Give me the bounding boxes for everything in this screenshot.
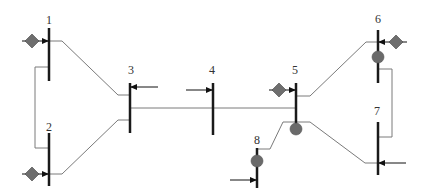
generator-diamond-icon xyxy=(25,34,39,48)
bus-label-1: 1 xyxy=(46,13,52,27)
compensator-bus-6-icon xyxy=(372,51,384,63)
compensators xyxy=(251,51,384,167)
loads xyxy=(131,87,406,180)
bus-label-6: 6 xyxy=(375,12,381,26)
bus-label-4: 4 xyxy=(209,63,215,77)
line-2-3 xyxy=(49,120,130,174)
bus-label-7: 7 xyxy=(374,104,380,118)
compensator-bus-5-icon xyxy=(290,123,302,135)
generator-diamond-icon xyxy=(389,35,403,49)
line-1-3 xyxy=(49,41,130,95)
bus-label-5: 5 xyxy=(292,63,298,77)
generator-diamond-icon xyxy=(25,167,39,181)
generator-diamond-icon xyxy=(272,83,286,97)
compensator-bus-8-icon xyxy=(251,155,263,167)
generator-bus-2 xyxy=(22,167,48,181)
bus-bars xyxy=(49,28,378,188)
line-5-7 xyxy=(296,122,378,163)
bus-label-2: 2 xyxy=(46,120,52,134)
bus-label-8: 8 xyxy=(254,133,260,147)
generator-bus-6 xyxy=(379,35,407,49)
line-5-6 xyxy=(296,42,378,96)
line-1-2 xyxy=(35,67,49,148)
line-6-7 xyxy=(378,69,392,137)
generator-bus-1 xyxy=(22,34,48,48)
line-5-8 xyxy=(257,122,296,149)
power-system-diagram: 1 2 3 4 5 6 7 8 xyxy=(0,0,430,194)
generator-bus-5 xyxy=(269,83,295,97)
bus-label-3: 3 xyxy=(128,63,134,77)
